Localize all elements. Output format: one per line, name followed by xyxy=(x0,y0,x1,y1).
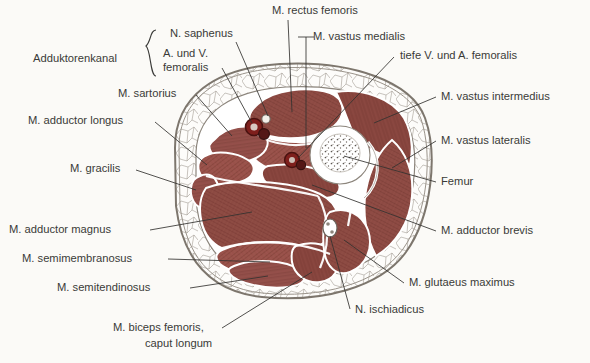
label-m-vastus-intermedius: M. vastus intermedius xyxy=(441,90,550,102)
thigh-cross-section-figure: Adduktorenkanal N. saphenus A. und V. fe… xyxy=(0,0,590,363)
label-a-v-femoralis-1: A. und V. xyxy=(163,47,208,59)
label-m-semimembranosus: M. semimembranosus xyxy=(22,252,132,264)
label-m-vastus-lateralis: M. vastus lateralis xyxy=(441,134,531,146)
label-m-adductor-magnus: M. adductor magnus xyxy=(9,223,111,235)
label-m-rectus-femoris: M. rectus femoris xyxy=(272,4,358,16)
label-n-ischiadicus: N. ischiadicus xyxy=(355,303,424,315)
label-m-biceps-femoris-1: M. biceps femoris, xyxy=(113,321,204,333)
label-m-biceps-femoris-2: caput longum xyxy=(145,337,212,349)
adduktorenkanal-brace xyxy=(146,30,156,76)
n-ischiadicus-structure xyxy=(323,219,337,237)
label-m-adductor-brevis: M. adductor brevis xyxy=(441,224,533,236)
label-femur: Femur xyxy=(441,175,474,187)
label-m-vastus-medialis: M. vastus medialis xyxy=(313,30,405,42)
label-m-gracilis: M. gracilis xyxy=(70,162,121,174)
label-m-adductor-longus: M. adductor longus xyxy=(28,114,124,126)
n-saphenus-structure xyxy=(262,115,270,123)
label-n-saphenus: N. saphenus xyxy=(170,27,233,39)
label-m-semitendinosus: M. semitendinosus xyxy=(57,281,151,293)
limb-cross-section xyxy=(175,64,432,299)
label-m-glutaeus-maximus: M. glutaeus maximus xyxy=(409,276,515,288)
label-m-sartorius: M. sartorius xyxy=(118,87,177,99)
label-tiefe-v-a-femoralis: tiefe V. und A. femoralis xyxy=(400,49,518,61)
label-adduktorenkanal: Adduktorenkanal xyxy=(33,52,117,64)
label-a-v-femoralis-2: femoralis xyxy=(163,61,209,73)
